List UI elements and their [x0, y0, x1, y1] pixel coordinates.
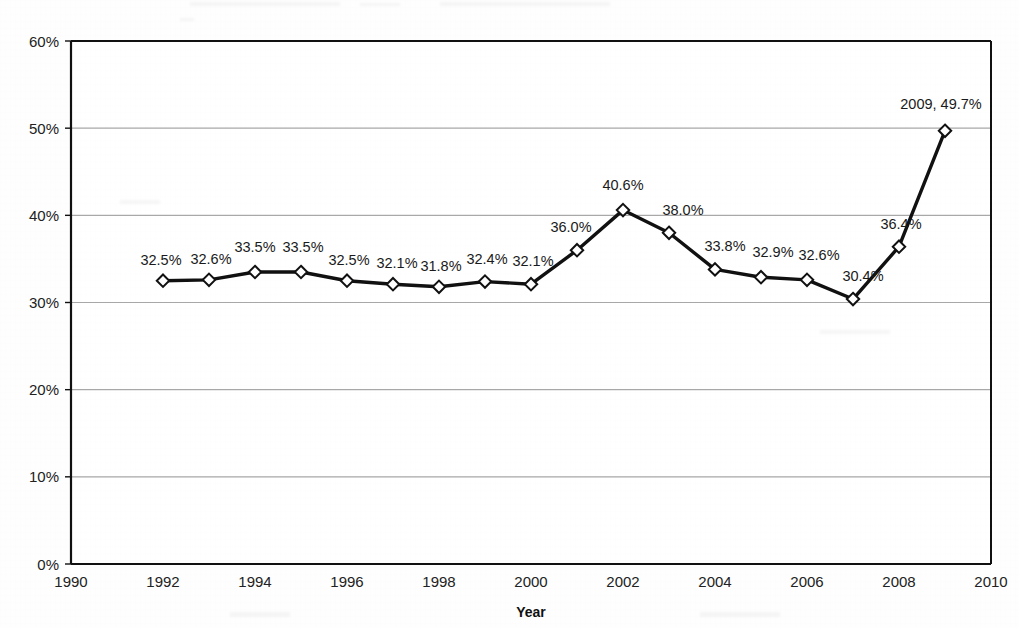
y-axis-tick-label: 20% [29, 381, 59, 398]
chart-container: 0%10%20%30%40%50%60% 1990199219941996199… [0, 0, 1019, 628]
data-point-label: 36.0% [550, 219, 591, 235]
y-axis-tick-label: 10% [29, 468, 59, 485]
data-point-label: 36.4% [880, 216, 921, 232]
y-axis-tick-label: 40% [29, 207, 59, 224]
y-axis-tick-label: 30% [29, 294, 59, 311]
y-axis-tick-label: 50% [29, 120, 59, 137]
data-point-label: 32.1% [512, 253, 553, 269]
x-axis-tick-label: 1992 [146, 573, 179, 590]
data-point-label: 38.0% [662, 202, 703, 218]
x-axis-tick-labels: 1990199219941996199820002002200420062008… [54, 573, 1007, 590]
data-point-label: 33.8% [704, 238, 745, 254]
x-axis-tick-label: 1994 [238, 573, 271, 590]
x-axis-tick-label: 2004 [698, 573, 731, 590]
y-axis-tick-labels: 0%10%20%30%40%50%60% [29, 33, 59, 573]
data-point-label: 32.6% [190, 251, 231, 267]
data-point-label: 32.4% [466, 251, 507, 267]
x-axis-tick-label: 2000 [514, 573, 547, 590]
x-axis-title: Year [516, 604, 546, 620]
y-axis-tick-label: 0% [37, 556, 59, 573]
data-point-label: 32.1% [376, 255, 417, 271]
x-axis-tick-label: 2002 [606, 573, 639, 590]
x-axis-tick-label: 1996 [330, 573, 363, 590]
data-point-label: 33.5% [234, 239, 275, 255]
data-point-label: 2009, 49.7% [900, 96, 982, 112]
x-axis-tick-label: 1998 [422, 573, 455, 590]
data-point-label: 32.6% [798, 247, 839, 263]
x-axis-tick-label: 2008 [882, 573, 915, 590]
data-point-label: 33.5% [282, 239, 323, 255]
line-chart: 0%10%20%30%40%50%60% 1990199219941996199… [0, 0, 1019, 628]
x-axis-tick-label: 2010 [974, 573, 1007, 590]
x-axis-tick-label: 2006 [790, 573, 823, 590]
data-point-label: 31.8% [420, 258, 461, 274]
data-point-label: 30.4% [842, 268, 883, 284]
y-axis-tick-label: 60% [29, 33, 59, 50]
data-point-label: 32.9% [752, 244, 793, 260]
data-point-label: 32.5% [328, 252, 369, 268]
x-axis-tick-label: 1990 [54, 573, 87, 590]
data-point-label: 40.6% [602, 177, 643, 193]
data-point-label: 32.5% [140, 252, 181, 268]
